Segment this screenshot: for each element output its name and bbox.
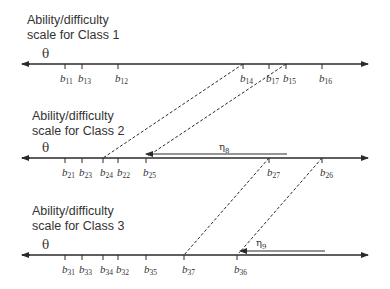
class2-title-line1: Ability/difficulty — [32, 109, 124, 124]
tick-label-b15: b15 — [283, 72, 296, 86]
tick-label-b14: b14 — [240, 72, 253, 86]
tick-label-b23: b23 — [79, 166, 92, 180]
class3-title-line2: scale for Class 3 — [32, 219, 124, 234]
class2-title: Ability/difficulty scale for Class 2 — [32, 109, 124, 139]
class1-title-line1: Ability/difficulty — [27, 13, 119, 28]
class3-axis — [22, 251, 368, 260]
class1-title: Ability/difficulty scale for Class 1 — [27, 13, 119, 43]
tick-label-b13: b13 — [78, 72, 91, 86]
tick-label-b31: b31 — [62, 263, 75, 277]
tick-label-b22: b22 — [117, 166, 130, 180]
tick-label-b11: b11 — [60, 72, 73, 86]
class1-axis — [22, 64, 368, 69]
tick-label-b33: b33 — [79, 263, 92, 277]
eta9-label: η9 — [256, 237, 266, 251]
tick-label-b12: b12 — [115, 72, 128, 86]
tick-label-b34: b34 — [100, 263, 113, 277]
class2-ticks — [65, 158, 322, 163]
class2-axis — [22, 154, 368, 163]
tick-label-b27: b27 — [267, 166, 280, 180]
linking-lines — [103, 64, 322, 255]
tick-label-b21: b21 — [62, 166, 75, 180]
class1-title-line2: scale for Class 1 — [27, 28, 119, 43]
tick-label-b36: b36 — [234, 263, 247, 277]
link-b26-b36 — [239, 158, 322, 253]
class1-theta-label: θ — [42, 47, 49, 61]
tick-label-b17: b17 — [266, 72, 279, 86]
tick-label-b37: b37 — [182, 263, 195, 277]
class3-ticks — [65, 255, 237, 260]
class3-title: Ability/difficulty scale for Class 3 — [32, 204, 124, 234]
class3-title-line1: Ability/difficulty — [32, 204, 124, 219]
tick-label-b24: b24 — [100, 166, 113, 180]
class1-ticks — [65, 64, 322, 69]
tick-label-b26: b26 — [320, 166, 333, 180]
eta8-label: η8 — [219, 141, 229, 155]
class2-theta-label: θ — [42, 141, 49, 155]
diagram-canvas — [0, 0, 390, 289]
tick-label-b25: b25 — [143, 166, 156, 180]
tick-label-b32: b32 — [116, 263, 129, 277]
tick-label-b16: b16 — [319, 72, 332, 86]
tick-label-b35: b35 — [144, 263, 157, 277]
class3-theta-label: θ — [42, 238, 49, 252]
class2-title-line2: scale for Class 2 — [32, 124, 124, 139]
